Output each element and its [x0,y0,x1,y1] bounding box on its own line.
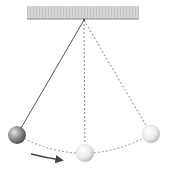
pendulum-diagram [0,0,169,179]
motion-arrow-icon [31,154,61,160]
string-left-solid [17,20,84,135]
bob-left-extreme [8,126,26,144]
string-right-dashed [84,20,151,134]
ceiling-support [27,6,139,19]
string-center-dashed [84,20,85,153]
ceiling-bar [27,6,139,19]
bob-bottom-center [76,144,94,162]
pivot-point [83,19,85,21]
bob-right-extreme [142,125,160,143]
